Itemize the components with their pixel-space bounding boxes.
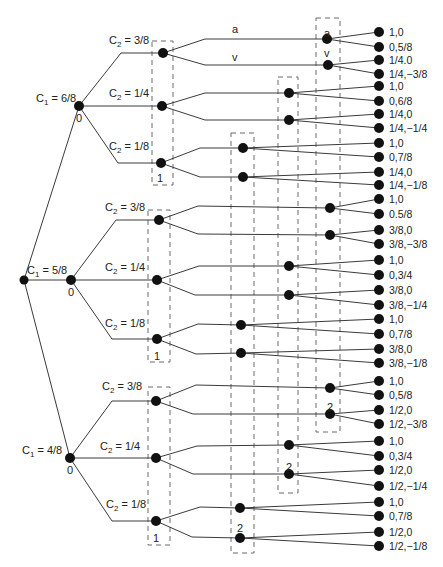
player-label-1: 1 [157,172,163,184]
player-label-0: 0 [76,112,82,124]
player1-decision-node [151,453,161,463]
payoff-label: 1/2,−3/8 [389,418,427,430]
p1-to-p2-edge [157,280,289,295]
terminal-node [374,55,384,65]
p2-to-terminal-edge [241,349,379,353]
terminal-node [374,300,384,310]
player2-infoset-box [231,133,254,553]
player1-decision-node [151,396,161,406]
payoff-label: 0,7/8 [389,151,413,163]
terminal-node [374,419,384,429]
payoff-label: 0,3/4 [389,269,413,281]
p2-to-terminal-edge [289,474,379,486]
player1-decision-node [152,334,162,344]
c2-label: C2 = 1/4 [109,87,149,102]
p2-to-terminal-edge [289,470,379,474]
p1-to-p2-edge [163,53,328,65]
payoff-label: 1/2,−1/4 [389,480,427,492]
payoff-label: 1,0 [389,137,404,149]
terminal-node [374,541,384,551]
payoff-label: 0,5/8 [389,41,413,53]
c2-label: C2 = 1/4 [105,261,145,276]
c2-label: C2 = 3/8 [105,201,145,216]
player2-decision-node [284,261,294,271]
player-label-2: 2 [237,522,243,534]
terminal-node [374,376,384,386]
player2-decision-node [238,143,248,153]
p2-to-terminal-edge [243,172,379,177]
p2-to-terminal-edge [330,230,379,235]
payoff-label: 1/4,−1/8 [389,179,427,191]
terminal-node [374,152,384,162]
payoff-label: 1,0 [389,26,404,38]
p2-to-terminal-edge [240,508,379,516]
action-label: a [232,23,239,35]
p2-to-terminal-edge [330,381,379,388]
p2-to-terminal-edge [289,441,379,445]
terminal-node [374,239,384,249]
c1-label: C1 = 6/8 [36,92,76,107]
p2-to-terminal-edge [289,266,379,275]
player2-decision-node [325,230,335,240]
terminal-node [374,194,384,204]
terminal-node [374,285,384,295]
p2-to-terminal-edge [328,60,379,65]
p2-to-terminal-edge [240,532,379,538]
payoff-label: 1/4,−1/4 [389,122,427,134]
terminal-node [374,69,384,79]
root-to-c1-edge [24,280,70,458]
terminal-node [374,481,384,491]
terminal-node [374,167,384,177]
terminal-node [374,225,384,235]
player2-infoset-box [278,77,298,493]
c2-label: C2 = 1/8 [109,140,149,155]
terminal-node [374,27,384,37]
payoff-label: 3/8,0 [389,343,413,355]
p1-to-p2-edge [156,507,240,521]
payoff-label: 1,0 [389,435,404,447]
terminal-node [374,96,384,106]
p2-to-terminal-edge [243,143,379,148]
payoff-label: 1/4,0 [389,166,413,178]
terminal-node [374,270,384,280]
p2-to-terminal-edge [240,502,379,508]
player2-decision-node [325,203,335,213]
payoff-label: 1,0 [389,313,404,325]
payoff-label: 1/2,0 [389,404,413,416]
payoff-label: 0,5/8 [389,389,413,401]
player2-infoset-box [316,18,340,432]
p1-to-p2-edge [162,93,289,106]
p2-to-terminal-edge [289,93,379,101]
terminal-node [374,451,384,461]
terminal-node [374,109,384,119]
action-label: v [324,47,330,59]
p2-to-terminal-edge [330,199,379,208]
player-label-0: 0 [67,464,73,476]
p2-to-terminal-edge [289,120,379,128]
player2-decision-node [236,320,246,330]
payoff-label: 1,0 [389,496,404,508]
payoff-label: 1/2,0 [389,526,413,538]
player-label-2: 2 [286,461,292,473]
payoff-label: 0,6/8 [389,95,413,107]
payoff-label: 1/2,−1/8 [389,540,427,552]
terminal-node [374,405,384,415]
c1-label: C1 = 4/8 [22,444,62,459]
c2-label: C2 = 1/8 [105,317,145,332]
payoff-label: 0,3/4 [389,450,413,462]
p2-to-terminal-edge [330,208,379,214]
terminal-node [374,209,384,219]
p2-to-terminal-edge [241,325,379,334]
game-tree-diagram: C1 = 6/80C1 = 5/80C1 = 4/80C2 = 3/8C2 = … [0,0,443,567]
terminal-node [374,527,384,537]
p1-to-p2-edge [157,266,289,280]
c2-label: C2 = 3/8 [109,34,149,49]
terminal-node [374,314,384,324]
terminal-node [374,497,384,507]
payoff-label: 1,0 [389,375,404,387]
p2-to-terminal-edge [289,445,379,456]
payoff-label: 1/2,0 [389,464,413,476]
terminal-node [374,180,384,190]
chance-node-c1 [65,453,75,463]
player2-decision-node [235,503,245,513]
